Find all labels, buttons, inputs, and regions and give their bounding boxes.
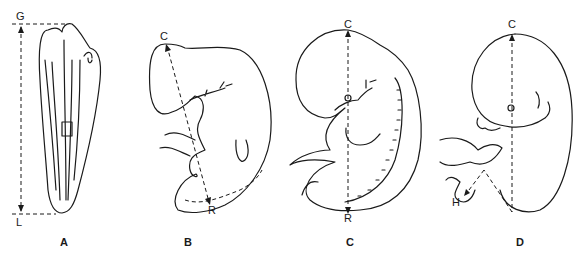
panel-label-a: A bbox=[60, 236, 68, 248]
marker-d-bottom: H bbox=[452, 196, 460, 208]
embryo-c-drawing bbox=[290, 30, 421, 214]
marker-b-top: C bbox=[160, 30, 168, 42]
marker-c-top: C bbox=[344, 18, 352, 30]
marker-a-bottom: L bbox=[16, 216, 22, 228]
panel-label-b: B bbox=[184, 236, 192, 248]
embryo-a-drawing bbox=[12, 24, 101, 214]
embryo-d-drawing bbox=[440, 34, 572, 212]
embryo-b-drawing bbox=[150, 44, 272, 212]
marker-a-top: G bbox=[16, 10, 25, 22]
marker-b-bottom: R bbox=[208, 204, 216, 216]
marker-d-top: C bbox=[508, 18, 516, 30]
panel-label-d: D bbox=[516, 236, 524, 248]
panel-label-c: C bbox=[346, 236, 354, 248]
embryo-diagram bbox=[0, 0, 583, 261]
marker-c-bottom: R bbox=[344, 212, 352, 224]
